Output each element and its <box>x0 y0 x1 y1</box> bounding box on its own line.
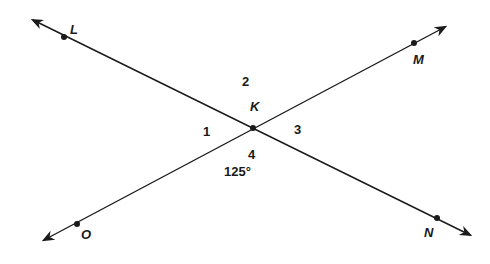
diagram-canvas <box>0 0 490 264</box>
angle-4-measure: 125° <box>224 165 251 178</box>
label-m: M <box>413 53 424 66</box>
line-om <box>44 27 445 240</box>
label-n: N <box>424 226 433 239</box>
label-o: O <box>81 228 91 241</box>
point-l <box>61 34 67 40</box>
point-k <box>250 125 256 131</box>
label-l: L <box>70 23 78 36</box>
angle-3-label: 3 <box>294 123 301 136</box>
angle-1-label: 2 <box>242 75 249 88</box>
label-k: K <box>250 100 259 113</box>
point-o <box>74 221 80 227</box>
angle-1-label-left: 1 <box>203 125 210 138</box>
angle-4-label: 4 <box>248 148 255 161</box>
point-n <box>434 215 440 221</box>
point-m <box>411 40 417 46</box>
